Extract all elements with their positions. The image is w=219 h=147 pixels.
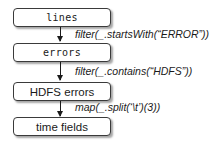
edge-label-filter-starts-with: filter(_.startsWith(“ERROR”)) (75, 28, 209, 40)
arrow-down-icon (60, 101, 61, 116)
node-hdfs-errors: HDFS errors (13, 82, 111, 101)
edge-label-filter-contains: filter(_.contains(“HDFS”)) (75, 65, 192, 77)
node-lines: lines (13, 8, 111, 27)
node-lines-label: lines (46, 12, 78, 23)
node-time-fields-label: time fields (36, 121, 88, 133)
node-errors-label: errors (43, 47, 81, 58)
node-hdfs-errors-label: HDFS errors (30, 86, 95, 98)
node-errors: errors (13, 43, 111, 62)
arrow-down-icon (60, 62, 61, 80)
edge-label-map-split: map(_.split(‘\t’)(3)) (75, 101, 160, 113)
node-time-fields: time fields (13, 117, 111, 136)
arrow-down-icon (60, 27, 61, 41)
